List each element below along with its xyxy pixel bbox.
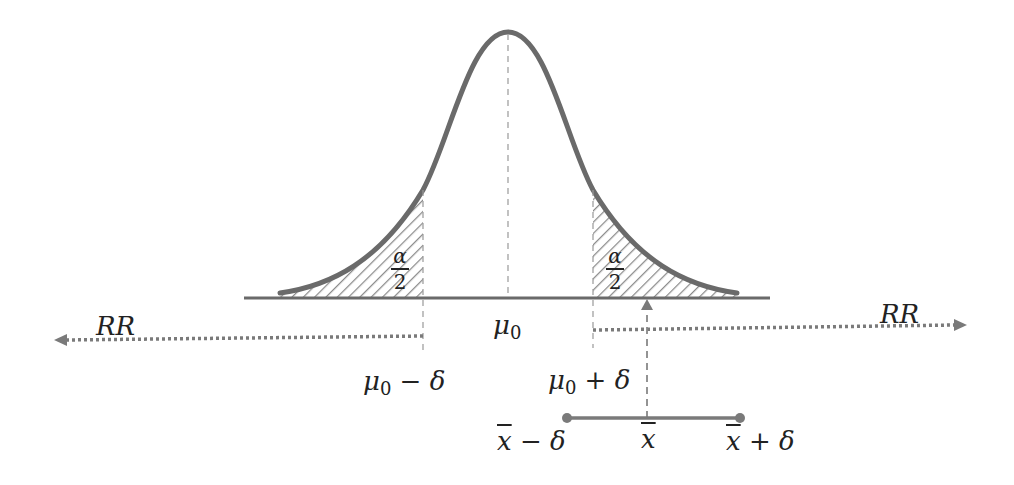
xbar-minus-delta-label: x − δ xyxy=(497,428,566,454)
mu-symbol: μ xyxy=(493,310,510,340)
rr-left-label: RR xyxy=(96,313,135,339)
rr-right-label: RR xyxy=(880,301,919,327)
rr-right-arrowhead-icon xyxy=(954,319,967,331)
subscript-zero: 0 xyxy=(510,322,521,343)
denominator-two: 2 xyxy=(604,272,626,292)
ci-left-endpoint xyxy=(562,413,572,423)
alpha-half-left-label: α 2 xyxy=(389,246,411,292)
ci-right-endpoint xyxy=(735,413,745,423)
rr-left-arrowhead-icon xyxy=(54,334,67,346)
minus-delta: − δ xyxy=(512,426,566,456)
xbar-symbol: x xyxy=(497,426,512,456)
denominator-two: 2 xyxy=(389,272,411,292)
mu0-minus-delta-label: μ0 − δ xyxy=(363,368,445,398)
mu-symbol: μ xyxy=(363,366,380,396)
xbar-plus-delta-label: x + δ xyxy=(726,428,795,454)
alpha-symbol: α xyxy=(604,246,626,266)
diagram-canvas xyxy=(0,0,1014,485)
xbar-symbol: x xyxy=(641,424,656,454)
plus-delta: + δ xyxy=(576,365,630,395)
plus-delta: + δ xyxy=(741,426,795,456)
mu-symbol: μ xyxy=(548,365,565,395)
subscript-zero: 0 xyxy=(380,378,391,399)
minus-delta: − δ xyxy=(391,366,445,396)
xbar-label: x xyxy=(641,426,656,452)
xbar-symbol: x xyxy=(726,426,741,456)
mu0-label: μ0 xyxy=(493,312,521,342)
alpha-half-right-label: α 2 xyxy=(604,246,626,292)
alpha-symbol: α xyxy=(389,246,411,266)
subscript-zero: 0 xyxy=(565,377,576,398)
mu0-plus-delta-label: μ0 + δ xyxy=(548,367,630,397)
xbar-arrowhead-icon xyxy=(641,299,653,310)
